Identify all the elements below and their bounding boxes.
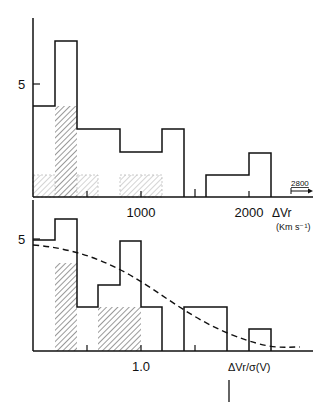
y-tick-label: 5 (18, 232, 25, 247)
x-tick-label: 2000 (235, 205, 264, 220)
x-tick-label: 1000 (127, 205, 156, 220)
x-axis-label: ΔVr/σ(V) (228, 361, 270, 373)
upper-histogram: 5 1000 2000 ΔVr (Km s⁻¹) 2800 (18, 18, 313, 232)
figure: 5 1000 2000 ΔVr (Km s⁻¹) 2800 5 1.0 ΔVr/… (0, 0, 336, 402)
y-tick-label: 5 (18, 77, 25, 92)
hatched-bin (55, 263, 77, 351)
x-axis-units: (Km s⁻¹) (276, 222, 311, 232)
x-tick-label: 1.0 (132, 359, 150, 374)
arrow-label: 2800 (291, 179, 309, 188)
hatched-bin (55, 106, 77, 197)
hatched-bin (33, 175, 55, 197)
hatched-bin (98, 307, 141, 351)
x-axis-label: ΔVr (272, 206, 292, 220)
arrow-head-icon (308, 189, 313, 194)
lower-histogram: 5 1.0 ΔVr/σ(V) (18, 200, 313, 402)
